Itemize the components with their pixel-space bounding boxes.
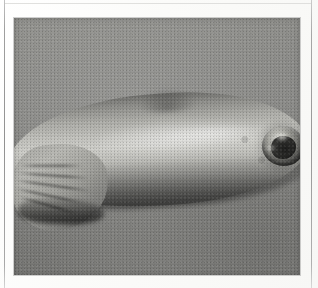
- page: Black and white clinical photograph of a…: [0, 0, 318, 288]
- lesion-scale-highlight: [275, 132, 289, 142]
- clinical-photograph: Black and white clinical photograph of a…: [14, 18, 300, 275]
- skin-lesion: [262, 126, 300, 166]
- hand: [14, 140, 112, 234]
- page-rule-top: [5, 3, 311, 4]
- lesion-scale-highlight: [265, 144, 276, 152]
- page-rule-right: [311, 0, 312, 288]
- skin-crease: [20, 165, 82, 167]
- page-rule-left: [4, 0, 5, 288]
